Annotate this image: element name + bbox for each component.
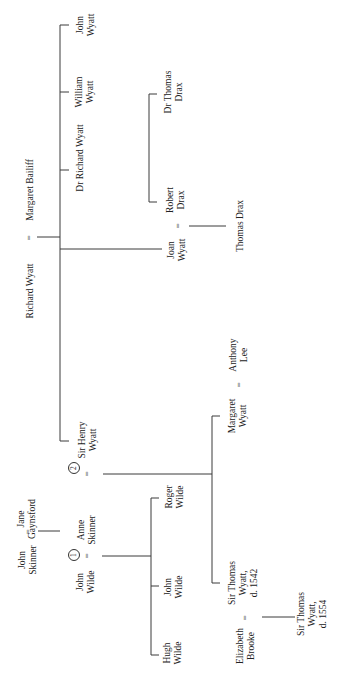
person-label: William Wyatt [74, 77, 96, 108]
person-label: Roger Wilde [164, 485, 186, 508]
person-label: Joan Wyatt [166, 239, 188, 262]
person-label: Robert Drax [165, 187, 187, 213]
person-label: Dr Richard Wyatt [75, 124, 86, 191]
person-label: John Wilde [75, 571, 97, 594]
person-label: Dr Thomas Drax [163, 71, 185, 114]
person-label: Sir Henry Wyatt [77, 421, 99, 458]
person-label: Hugh Wilde [162, 642, 184, 665]
person-label: John Skinner [17, 545, 39, 575]
family-tree-diagram: Richard Wyatt = Margaret Bailiff John Wy… [0, 0, 344, 687]
person-label: Sir Thomas Wyatt, d. 1542 [227, 561, 260, 605]
person-label: Margaret Bailiff [25, 159, 36, 221]
person-label: Anthony Lee [228, 338, 250, 371]
person-label: John Wilde [163, 576, 185, 599]
person-label: Elizabeth Brooke [235, 628, 257, 664]
person-label: Margaret Wyatt [227, 399, 249, 434]
person-label: Richard Wyatt [25, 264, 36, 319]
person-label: Sir Thomas Wyatt, d. 1554 [296, 592, 329, 636]
person-label: Anne Skinner [76, 515, 98, 545]
person-label: John Wyatt [75, 14, 97, 37]
person-label: Thomas Drax [235, 200, 246, 252]
